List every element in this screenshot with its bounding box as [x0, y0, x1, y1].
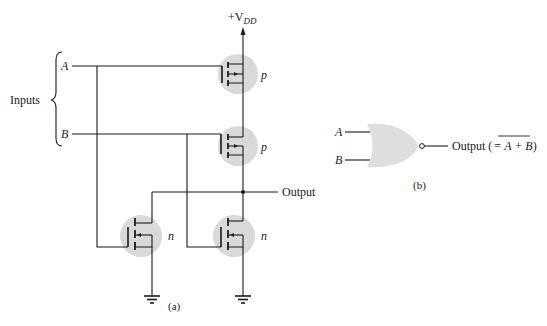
p-top-label: p	[260, 68, 267, 82]
n-right-label: n	[261, 229, 267, 243]
ground-icon	[144, 296, 160, 303]
n-left-label: n	[168, 229, 174, 243]
or-gate-body	[367, 124, 419, 167]
input-a-label: A	[60, 59, 69, 73]
inputs-label: Inputs	[10, 93, 40, 107]
vdd-label: +VDD	[228, 10, 257, 26]
gate-input-b-label: B	[335, 153, 343, 167]
input-a-to-nleft-wire	[97, 66, 128, 247]
cmos-nor-diagram: +VDD A B Inputs p p n n Output (a) A B O…	[0, 0, 547, 326]
input-b-label: B	[61, 127, 69, 141]
inversion-bubble-icon	[420, 144, 425, 149]
caption-b: (b)	[413, 179, 426, 192]
p-bottom-label: p	[260, 140, 267, 154]
output-junction-dot	[241, 190, 245, 194]
nor-gate-symbol	[345, 124, 448, 167]
output-label: Output	[282, 185, 316, 199]
gate-output-expression: Output (=A + B)	[452, 139, 537, 153]
gate-input-a-label: A	[334, 125, 343, 139]
caption-a: (a)	[168, 300, 181, 313]
ground-icon	[235, 296, 251, 303]
cmos-nor-schematic	[51, 27, 278, 303]
vdd-arrow-icon	[241, 27, 246, 35]
